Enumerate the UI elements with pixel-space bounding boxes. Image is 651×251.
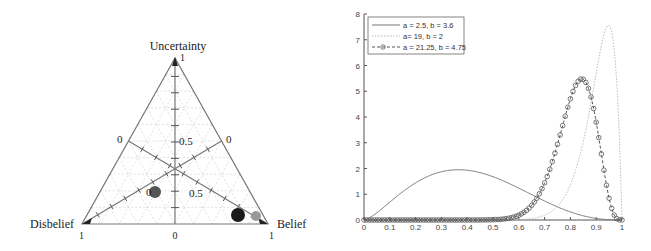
legend-label-3: a = 21.25, b = 4.75 [403, 43, 466, 52]
series-marker [571, 89, 576, 94]
belief-max-label: 1 [269, 230, 274, 241]
beta-pdf-chart: 012345678 00.10.20.30.40.50.60.70.80.91 … [330, 0, 651, 251]
belief-half-label: 0.5 [189, 187, 203, 199]
series-marker [545, 174, 550, 179]
series-line-2 [364, 25, 622, 220]
disbelief-half-label: 0 [146, 186, 152, 198]
svg-text:5: 5 [356, 87, 361, 96]
svg-text:1: 1 [356, 190, 361, 199]
left-edge-zero-label: 0 [117, 133, 123, 145]
svg-text:6: 6 [356, 62, 361, 71]
legend-label-2: a= 19, b = 2 [403, 32, 443, 41]
opinion-point-3 [251, 211, 261, 221]
y-axis-ticks: 012345678 [356, 10, 367, 225]
svg-text:0.6: 0.6 [513, 223, 525, 232]
svg-text:1: 1 [620, 223, 625, 232]
svg-text:0: 0 [356, 216, 361, 225]
right-edge-zero-label: 0 [226, 133, 232, 145]
svg-text:0.9: 0.9 [591, 223, 603, 232]
svg-text:7: 7 [356, 36, 361, 45]
uncertainty-half-label: 0.5 [179, 135, 193, 147]
uncertainty-max-label: 1 [180, 52, 185, 63]
disbelief-max-label: 1 [79, 230, 84, 241]
series-line-1 [364, 170, 622, 220]
legend-label-1: a = 2.5, b = 3.6 [403, 21, 453, 30]
svg-text:0.7: 0.7 [539, 223, 551, 232]
svg-text:0.8: 0.8 [565, 223, 577, 232]
svg-text:8: 8 [356, 10, 361, 19]
bottom-zero-label: 0 [173, 230, 178, 241]
svg-text:0.2: 0.2 [410, 223, 422, 232]
svg-text:0.1: 0.1 [384, 223, 396, 232]
disbelief-label: Disbelief [30, 217, 74, 231]
opinion-triangle-chart: Uncertainty 1 Disbelief 1 Belief 1 0 0 0… [0, 0, 330, 251]
plot-series [362, 25, 625, 222]
svg-text:0: 0 [362, 223, 367, 232]
svg-text:2: 2 [356, 165, 361, 174]
series-line-3 [364, 79, 622, 220]
svg-text:0.5: 0.5 [487, 223, 499, 232]
legend: a = 2.5, b = 3.6 a= 19, b = 2 a = 21.25,… [368, 17, 466, 54]
opinion-point-2 [231, 208, 245, 222]
svg-text:0.4: 0.4 [462, 223, 474, 232]
triangle-svg: Uncertainty 1 Disbelief 1 Belief 1 0 0 0… [0, 0, 330, 251]
belief-label: Belief [277, 217, 306, 231]
svg-text:4: 4 [356, 113, 361, 122]
svg-text:3: 3 [356, 139, 361, 148]
line-chart-svg: 012345678 00.10.20.30.40.50.60.70.80.91 … [330, 0, 651, 251]
svg-text:0.3: 0.3 [436, 223, 448, 232]
uncertainty-label: Uncertainty [150, 39, 207, 53]
